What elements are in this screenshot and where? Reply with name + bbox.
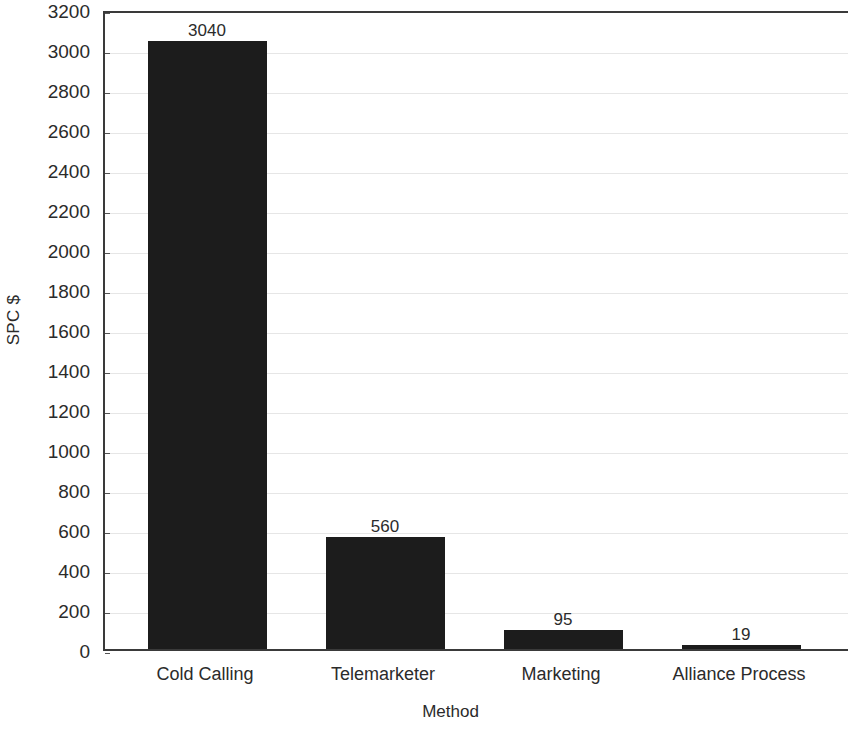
bar-value-label: 95	[504, 611, 623, 628]
y-tick-label: 2600	[48, 122, 90, 141]
y-axis-tick-labels: 0200400600800100012001400160018002000220…	[0, 0, 96, 733]
x-tick-label: Cold Calling	[116, 663, 294, 685]
y-tick-label: 1800	[48, 282, 90, 301]
y-tick-label: 800	[58, 482, 90, 501]
plot-area: 30405609519	[103, 11, 848, 651]
bar	[682, 645, 801, 649]
y-tick-label: 2400	[48, 162, 90, 181]
x-tick-label: Telemarketer	[294, 663, 472, 685]
bar-value-label: 19	[682, 626, 801, 643]
x-tick-label: Alliance Process	[650, 663, 828, 685]
x-axis-tick-labels: Cold CallingTelemarketerMarketingAllianc…	[103, 663, 848, 691]
y-tick-label: 3000	[48, 42, 90, 61]
x-tick-label: Marketing	[472, 663, 650, 685]
bars-layer: 30405609519	[105, 13, 848, 649]
bar-value-label: 3040	[148, 22, 267, 39]
bar	[326, 537, 445, 649]
y-tick-label: 200	[58, 602, 90, 621]
y-tick-label: 1600	[48, 322, 90, 341]
y-tick-label: 3200	[48, 2, 90, 21]
y-tick-label: 600	[58, 522, 90, 541]
bar	[504, 630, 623, 649]
bar	[148, 41, 267, 649]
y-tick-label: 1200	[48, 402, 90, 421]
y-tick-label: 1400	[48, 362, 90, 381]
y-tick-label: 2800	[48, 82, 90, 101]
y-tick-label: 0	[79, 642, 90, 661]
y-tick-mark	[105, 653, 110, 654]
y-tick-label: 2000	[48, 242, 90, 261]
y-tick-label: 1000	[48, 442, 90, 461]
y-tick-label: 2200	[48, 202, 90, 221]
x-axis-title: Method	[103, 702, 798, 722]
bar-value-label: 560	[326, 518, 445, 535]
y-tick-label: 400	[58, 562, 90, 581]
